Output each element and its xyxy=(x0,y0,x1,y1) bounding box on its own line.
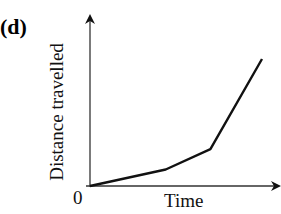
chart-figure: (d) Distance travelled Time 0 xyxy=(0,0,281,214)
x-axis-label: Time xyxy=(164,191,203,210)
origin-label: 0 xyxy=(73,188,83,207)
distance-line xyxy=(90,59,262,186)
y-axis-label: Distance travelled xyxy=(47,43,66,181)
chart-plot xyxy=(0,0,281,214)
panel-label: (d) xyxy=(0,16,27,38)
